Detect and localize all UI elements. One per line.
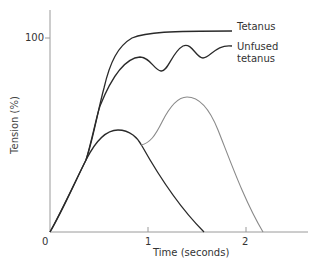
tick-label-origin: 0 xyxy=(42,236,48,247)
y-axis-label: Tension (%) xyxy=(9,96,20,154)
annotation-unfused-line1: Unfused xyxy=(237,41,278,52)
tick-label-2: 2 xyxy=(242,236,248,247)
tick-label-1: 1 xyxy=(145,236,151,247)
x-axis-label: Time (seconds) xyxy=(153,247,229,258)
tick-label-100: 100 xyxy=(25,32,44,43)
single-twitch-curve xyxy=(50,130,204,232)
annotation-unfused-line2: tetanus xyxy=(237,53,275,64)
unfused-tetanus-curve xyxy=(86,45,232,160)
tetanus-curve xyxy=(50,31,232,232)
summation-curve xyxy=(141,97,263,232)
annotation-tetanus: Tetanus xyxy=(237,21,276,32)
